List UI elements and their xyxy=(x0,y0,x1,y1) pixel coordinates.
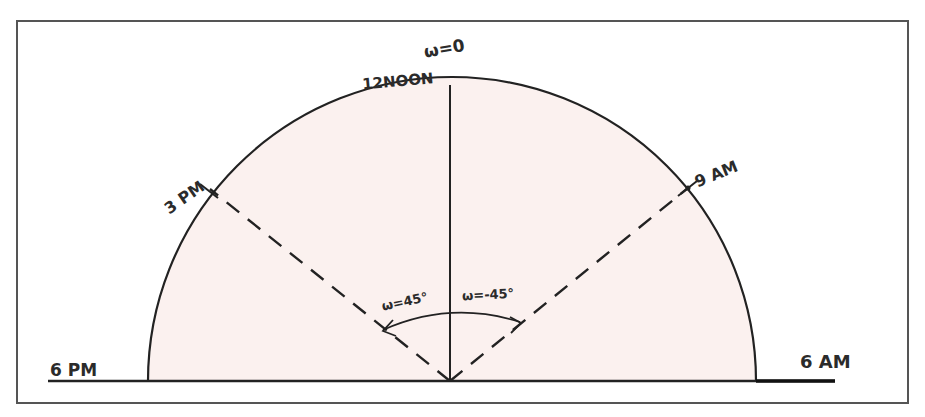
label-6am: 6 AM xyxy=(800,351,851,372)
morning-point xyxy=(686,186,691,191)
hour-angle-diagram: ω=0 12NOON 3 PM 9 AM 6 PM 6 AM ω=45° ω=-… xyxy=(0,0,925,417)
sky-semicircle xyxy=(148,77,756,381)
label-6pm: 6 PM xyxy=(50,360,97,380)
label-9am: 9 AM xyxy=(692,157,741,191)
label-omega-zero: ω=0 xyxy=(422,35,466,62)
label-angle-morning: ω=-45° xyxy=(462,286,515,304)
